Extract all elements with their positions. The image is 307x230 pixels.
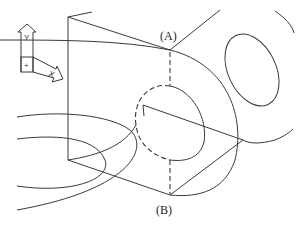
block-inner-notch — [143, 105, 144, 116]
block-bottom-edge — [68, 160, 170, 195]
x-axis-arrow — [33, 57, 63, 82]
outer-left-arc — [17, 114, 137, 210]
right-ellipse — [214, 25, 290, 114]
outer-arc-bottom — [243, 129, 293, 143]
hole-hidden-arc — [135, 85, 170, 160]
block — [68, 10, 243, 195]
block-top-edge — [68, 17, 170, 50]
block-top-back-edge — [68, 12, 92, 17]
label-point-a: (A) — [160, 29, 177, 43]
inner-left-arc — [17, 137, 106, 188]
diagram-canvas: Y + X (A) (B) — [0, 0, 307, 230]
outer-arc-top — [275, 11, 294, 33]
x-axis-label: X — [47, 69, 56, 80]
label-point-b: (B) — [156, 203, 172, 217]
origin-plus: + — [24, 61, 29, 70]
hole-visible-arc — [170, 86, 205, 160]
block-inner-edge — [143, 105, 243, 140]
block-top-right-edge — [170, 10, 220, 50]
ucs-axis-icon: Y + X — [18, 24, 63, 82]
y-axis-label: Y — [24, 33, 30, 42]
